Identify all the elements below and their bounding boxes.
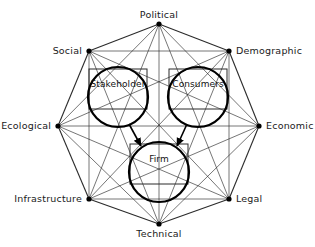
circle-outline-consumers: [168, 67, 228, 127]
actor-label-firm: Firm: [149, 155, 169, 164]
node-dot-demographic[interactable]: [226, 48, 231, 53]
arrow-stakeholder-to-firm: [129, 124, 141, 146]
actor-label-stakeholder: Stakeholder: [91, 80, 146, 89]
node-dot-social[interactable]: [86, 48, 91, 53]
node-label-economic: Economic: [266, 121, 314, 131]
circle-outline-stakeholder: [88, 67, 148, 127]
node-label-ecological: Ecological: [1, 121, 51, 131]
actor-circle-consumers[interactable]: [168, 67, 228, 127]
edge-legal-ecological: [58, 126, 229, 199]
diagram-canvas: PoliticalDemographicEconomicLegalTechnic…: [0, 0, 315, 247]
node-label-legal: Legal: [236, 194, 262, 204]
node-label-demographic: Demographic: [236, 46, 302, 56]
node-label-social: Social: [53, 46, 82, 56]
node-dot-infrastructure[interactable]: [86, 196, 91, 201]
edge-technical-infrastructure: [89, 199, 159, 224]
edge-political-demographic: [159, 24, 229, 51]
node-dot-economic[interactable]: [256, 123, 261, 128]
node-dot-technical[interactable]: [156, 221, 161, 226]
actor-label-consumers: Consumers: [172, 80, 223, 89]
edge-political-infrastructure: [89, 24, 159, 199]
octagon-edges: [58, 24, 259, 224]
node-label-infrastructure: Infrastructure: [14, 194, 82, 204]
node-dot-ecological[interactable]: [55, 123, 60, 128]
node-dot-political[interactable]: [156, 21, 161, 26]
node-label-political: Political: [140, 10, 178, 20]
node-label-technical: Technical: [136, 229, 181, 239]
actor-circle-stakeholder[interactable]: [88, 67, 148, 127]
edge-legal-technical: [159, 199, 229, 224]
arrow-consumers-to-firm: [177, 124, 187, 146]
node-dot-legal[interactable]: [226, 196, 231, 201]
edge-political-legal: [159, 24, 229, 199]
edge-political-social: [89, 24, 159, 51]
